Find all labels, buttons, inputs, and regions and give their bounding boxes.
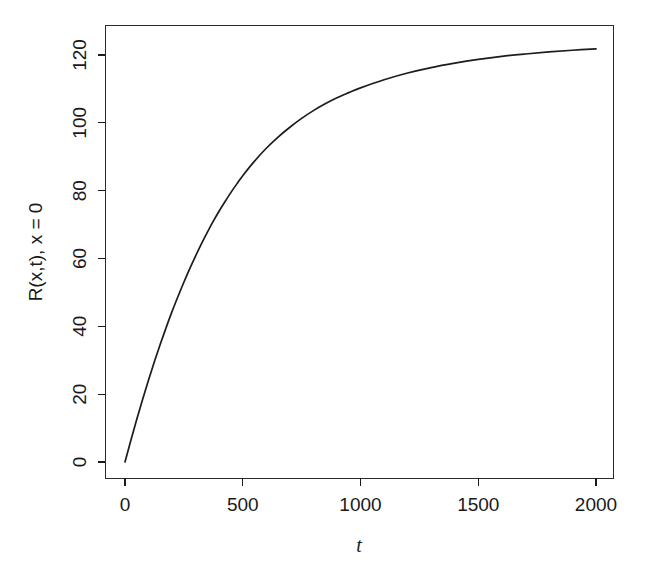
y-tick-label-80: 80 <box>69 180 90 201</box>
y-tick-label-0: 0 <box>69 457 90 468</box>
y-tick-label-40: 40 <box>69 316 90 337</box>
x-tick-label-500: 500 <box>227 494 259 515</box>
line-chart: 0 20 40 60 80 100 120 0 500 1000 1500 20… <box>0 0 648 577</box>
x-tick-label-1000: 1000 <box>339 494 381 515</box>
plot-frame <box>106 26 614 479</box>
x-tick-label-1500: 1500 <box>457 494 499 515</box>
y-tick-label-100: 100 <box>69 107 90 139</box>
x-axis-tick-labels: 0 500 1000 1500 2000 <box>120 494 617 515</box>
y-axis-title: R(x,t), x = 0 <box>25 203 46 302</box>
x-axis-title: t <box>356 534 362 556</box>
data-series-line <box>125 49 596 462</box>
x-axis-ticks <box>125 478 596 486</box>
y-axis-ticks <box>98 55 105 462</box>
y-tick-label-20: 20 <box>69 384 90 405</box>
figure-container: 0 20 40 60 80 100 120 0 500 1000 1500 20… <box>0 0 648 577</box>
y-tick-label-60: 60 <box>69 248 90 269</box>
x-tick-label-0: 0 <box>120 494 131 515</box>
x-tick-label-2000: 2000 <box>575 494 617 515</box>
y-axis-tick-labels: 0 20 40 60 80 100 120 <box>69 39 90 467</box>
y-tick-label-120: 120 <box>69 39 90 71</box>
